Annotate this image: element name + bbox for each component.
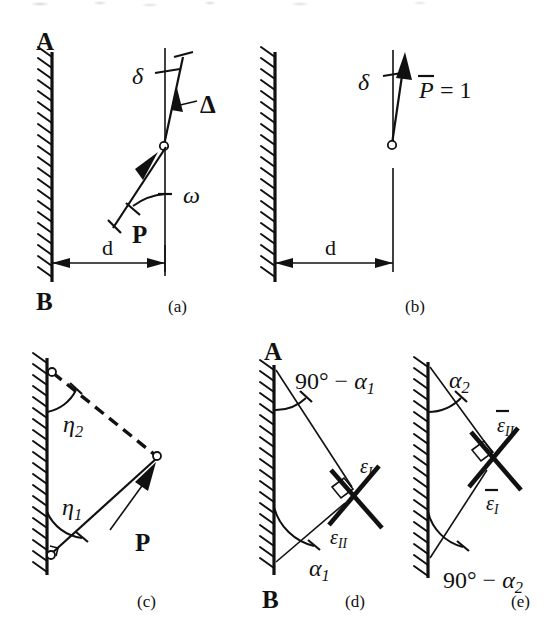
wall-hatching-c (33, 353, 47, 572)
hinge-bottom-c (47, 551, 55, 559)
panel-c: η2 η1 P (c) (33, 353, 161, 611)
label-eta1-c: η1 (62, 494, 82, 524)
label-angle-bottom-d: α1 (309, 555, 330, 585)
alpha1-symbol-d: α (309, 555, 322, 581)
panel-d: A B 90° − α1 α1 εI εII (d) (260, 338, 382, 613)
dim-arrow-right-a (147, 258, 165, 268)
caption-d: (d) (345, 592, 365, 611)
alpha1-subscript-d: 1 (322, 566, 330, 585)
alpha-symbol-d: α (354, 368, 367, 394)
svg-text:εII: εII (497, 414, 515, 439)
svg-text:η2: η2 (63, 411, 83, 441)
unit-load-symbol-b: P (418, 77, 434, 103)
strain-bar-Ibar-e (471, 432, 521, 490)
label-wall-top-d: A (264, 338, 282, 365)
label-distance-a: d (102, 235, 113, 260)
eta2-arc-c (47, 390, 76, 412)
angle-top-arc-e (428, 398, 461, 412)
label-strain-IIbar-e: εII (496, 411, 515, 439)
caption-a: (a) (168, 297, 187, 316)
dim-arrow-right-b (375, 258, 393, 268)
eta1-symbol-c: η (62, 494, 74, 520)
epsIIbar-symbol-e: ε (497, 414, 505, 436)
delta-tick-a (155, 69, 180, 73)
strain-bar-I-d (331, 470, 382, 528)
alphaB-symbol-e: α (502, 567, 515, 593)
hinge-top-c (48, 368, 56, 376)
dim-arrow-left-b (275, 258, 293, 268)
dim-arrow-left-a (52, 258, 70, 268)
epsIIbar-subscript-e: II (504, 424, 516, 439)
epsIbar-symbol-e: ε (486, 492, 494, 514)
eta2-subscript-c: 2 (75, 422, 83, 441)
label-strain-I-d: εI (360, 455, 374, 480)
label-bigdelta-a: Δ (200, 91, 216, 118)
label-unit-load-b: P = 1 (418, 76, 472, 103)
caption-b: (b) (405, 297, 425, 316)
svg-text:P: P (418, 77, 434, 103)
alpha2-symbol-e: α (449, 367, 462, 393)
label-angle-top-d: 90° − α1 (295, 368, 375, 398)
label-force-c: P (135, 529, 150, 556)
svg-text:α1: α1 (309, 555, 330, 585)
label-omega-a: ω (183, 182, 200, 208)
panel-e: α2 90° − α2 εII εI (e) (414, 357, 530, 611)
figure-canvas: A B δ Δ ω P d (a) (0, 0, 558, 644)
ninety-text-d: 90° − (295, 368, 354, 394)
svg-text:η1: η1 (62, 494, 82, 524)
svg-text:εI: εI (486, 492, 500, 517)
label-distance-b: d (325, 235, 336, 260)
label-force-a: P (132, 221, 147, 248)
figure-svg: A B δ Δ ω P d (a) (0, 0, 558, 644)
panel-b: δ P = 1 d (b) (261, 47, 472, 316)
ninety-text-e: 90° − (443, 567, 502, 593)
wall-hatching-b (261, 47, 275, 277)
label-strain-Ibar-e: εI (485, 490, 500, 517)
member-top-cap-a (174, 52, 193, 57)
label-delta-a: δ (132, 63, 144, 89)
epsII-subscript-d: II (337, 536, 349, 551)
eta1-subscript-c: 1 (74, 505, 82, 524)
eta2-symbol-c: η (63, 411, 75, 437)
label-wall-top-a: A (36, 28, 54, 55)
epsI-symbol-d: ε (360, 455, 368, 477)
panel-a: A B δ Δ ω P d (a) (36, 28, 216, 316)
svg-text:εII: εII (330, 526, 348, 551)
label-angle-top-e: α2 (449, 367, 470, 397)
wall-hatching-e (414, 357, 428, 576)
label-delta-b: δ (358, 69, 370, 95)
hinge-node-b (388, 141, 396, 149)
label-wall-bottom-a: B (36, 288, 53, 315)
force-tick-lower-a (108, 220, 121, 233)
alpha2-subscript-e: 2 (462, 378, 470, 397)
epsII-symbol-d: ε (330, 526, 338, 548)
label-strain-II-d: εII (330, 526, 348, 551)
omega-arc-a (133, 194, 165, 206)
hinge-right-c (153, 452, 161, 460)
caption-e: (e) (511, 592, 530, 611)
epsIbar-subscript-e: I (493, 502, 500, 517)
label-wall-bottom-d: B (262, 586, 279, 613)
wall-hatching-d (260, 360, 274, 568)
svg-text:α2: α2 (449, 367, 470, 397)
alpha-subscript-d: 1 (367, 379, 375, 398)
caption-c: (c) (137, 592, 156, 611)
wall-hatching-a (38, 47, 52, 277)
force-line-a (113, 147, 166, 228)
label-eta2-c: η2 (63, 411, 83, 441)
svg-text:εI: εI (360, 455, 374, 480)
unit-load-arrow-head-b (396, 52, 412, 80)
svg-text:90° − α1: 90° − α1 (295, 368, 375, 398)
unit-load-equation-b: = 1 (440, 77, 472, 103)
